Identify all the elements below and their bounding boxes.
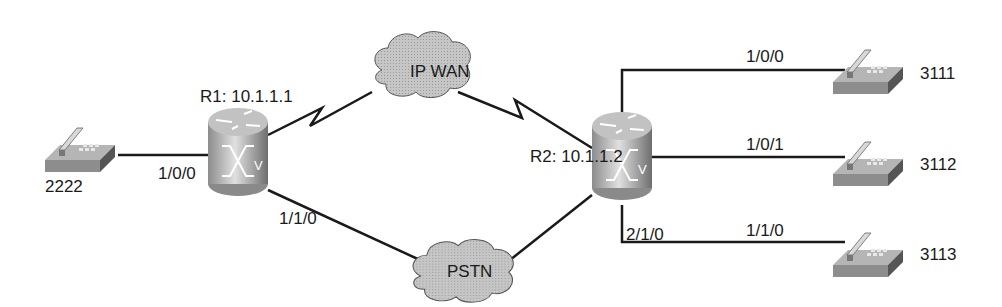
cloud-label-pstn: PSTN — [447, 263, 492, 280]
phone-number-3113: 3113 — [920, 246, 957, 263]
phone-number-3112: 3112 — [920, 156, 957, 173]
phone-number-2222: 2222 — [45, 178, 83, 195]
link-r2-3111 — [622, 70, 845, 138]
phone-number-3111: 3111 — [920, 65, 955, 82]
router-r1 — [208, 108, 268, 196]
port-label-r1-pstn: 1/1/0 — [279, 210, 317, 227]
router-label-r2: R2: 10.1.1.2 — [530, 148, 623, 165]
router-label-r1: R1: 10.1.1.1 — [200, 88, 293, 105]
phone-2222 — [45, 128, 115, 172]
cloud-label-ip-wan: IP WAN — [410, 63, 470, 80]
link-pstn-r2 — [510, 195, 592, 260]
port-label-r2-3113: 1/1/0 — [746, 222, 784, 239]
phone-3111 — [833, 50, 903, 94]
port-label-r2-pstn: 2/1/0 — [626, 226, 664, 243]
port-label-r1-phone: 1/0/0 — [158, 165, 196, 182]
phone-3113 — [833, 233, 903, 277]
port-label-r2-3112: 1/0/1 — [746, 136, 784, 153]
phone-3112 — [833, 142, 903, 186]
link-ipwan-r2 — [458, 92, 592, 148]
port-label-r2-3111: 1/0/0 — [746, 48, 784, 65]
network-diagram: V — [0, 0, 1002, 307]
